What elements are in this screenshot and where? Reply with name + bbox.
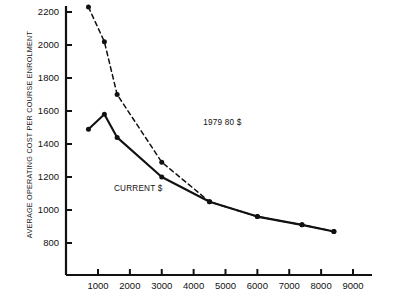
series-annotation-1: CURRENT $	[114, 184, 163, 193]
y-axis-tick-label: 1800	[25, 72, 59, 83]
y-axis-tick-label: 2000	[25, 39, 59, 50]
series-point-0	[102, 39, 107, 44]
series-line-1	[88, 114, 333, 231]
y-axis-tick-label: 1400	[25, 138, 59, 149]
series-point-0	[86, 5, 91, 10]
series-point-0	[115, 92, 120, 97]
series-point-1	[115, 135, 120, 140]
y-axis-tick-label: 1200	[25, 171, 59, 182]
series-point-1	[300, 222, 305, 227]
series-point-1	[331, 229, 336, 234]
y-axis-tick-label: 1000	[25, 204, 59, 215]
series-point-1	[255, 214, 260, 219]
series-point-0	[159, 160, 164, 165]
series-point-1	[86, 127, 91, 132]
series-annotation-0: 1979 80 $	[203, 118, 241, 127]
y-axis-tick-label: 2200	[25, 6, 59, 17]
y-axis-tick-label: 800	[25, 237, 59, 248]
x-axis-tick-label: 9000	[333, 280, 373, 291]
series-point-1	[159, 175, 164, 180]
series-point-1	[207, 199, 212, 204]
chart-canvas: AVERAGE OPERATING COST PER COURSE ENROLM…	[0, 0, 393, 303]
y-axis-tick-label: 1600	[25, 105, 59, 116]
series-point-1	[102, 112, 107, 117]
